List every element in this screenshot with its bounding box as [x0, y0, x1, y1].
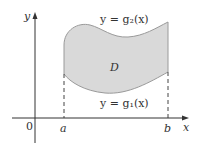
upper-curve-label: y = g₂(x)	[99, 13, 149, 26]
lower-curve-label: y = g₁(x)	[99, 97, 149, 110]
labels-layer: y x 0 a b D y = g₂(x) y = g₁(x)	[0, 0, 201, 149]
y-axis-label: y	[23, 10, 31, 23]
origin-label: 0	[26, 120, 33, 133]
tick-label-b: b	[164, 122, 171, 135]
region-label: D	[109, 61, 119, 74]
x-axis-label: x	[183, 121, 190, 134]
tick-label-a: a	[60, 122, 67, 135]
